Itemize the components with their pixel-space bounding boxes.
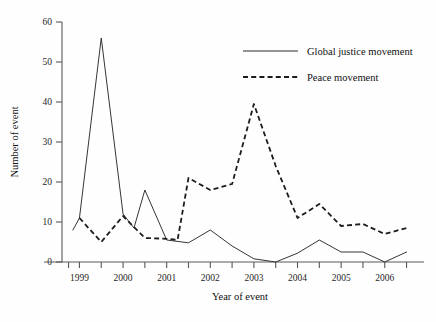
chart-legend: Global justice movementPeace movement [243, 46, 413, 83]
y-tick-label: 10 [43, 217, 53, 227]
x-tick-label: 2006 [375, 273, 394, 283]
legend-label-global-justice-movement: Global justice movement [307, 46, 413, 57]
x-tick-label: 2002 [201, 273, 220, 283]
x-tick-label: 1999 [70, 273, 89, 283]
y-axis-ticks: 0102030405060 [43, 17, 63, 267]
x-tick-label: 2000 [114, 273, 133, 283]
series-line-peace-movement [79, 104, 406, 242]
chart-figure: 0102030405060 19992000200120022003200420… [0, 0, 436, 322]
x-tick-label: 2005 [332, 273, 351, 283]
y-tick-label: 60 [43, 17, 53, 27]
y-tick-label: 50 [43, 57, 53, 67]
y-tick-label: 30 [43, 137, 53, 147]
x-axis-ticks: 19992000200120022003200420052006 [69, 262, 407, 283]
y-tick-label: 40 [43, 97, 53, 107]
x-tick-label: 2004 [288, 273, 307, 283]
y-tick-label: 20 [43, 177, 53, 187]
x-axis-title: Year of event [212, 291, 268, 302]
legend-label-peace-movement: Peace movement [307, 72, 379, 83]
x-tick-label: 2001 [157, 273, 176, 283]
x-tick-label: 2003 [244, 273, 263, 283]
y-axis-title: Number of event [9, 106, 20, 177]
line-chart: 0102030405060 19992000200120022003200420… [0, 0, 436, 322]
